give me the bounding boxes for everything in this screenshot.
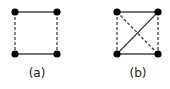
graph-node [53, 50, 60, 57]
figure-label-a: (a) [29, 66, 46, 80]
graph-node [11, 50, 18, 57]
graph-node [53, 8, 60, 15]
edge-solid [117, 12, 158, 54]
figure-label-b: (b) [130, 66, 147, 80]
graph-node [113, 8, 120, 15]
graph-node [154, 8, 161, 15]
graph-node [154, 50, 161, 57]
graph-node [113, 50, 120, 57]
graph-node [11, 8, 18, 15]
